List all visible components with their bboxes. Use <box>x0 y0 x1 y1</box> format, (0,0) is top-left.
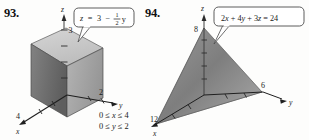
eq94-t2: + <box>229 14 238 23</box>
y-axis-arrow-94 <box>280 99 287 104</box>
figure-94: 94. <box>150 0 309 140</box>
constraint-y: 0 ≤ y ≤ 2 <box>99 121 129 132</box>
y-axis-arrow-93 <box>111 102 118 107</box>
x-tick-label-94: 12 <box>150 115 158 124</box>
y-tick-label-94: 6 <box>261 81 265 90</box>
y-axis-label-94: y <box>288 98 293 107</box>
eq93-frac-numerator: 1 <box>115 11 118 18</box>
z-tick-label-94: 8 <box>194 25 198 34</box>
y-axis-ext-94 <box>263 92 282 99</box>
eq94-t5: + <box>245 14 254 23</box>
constraint-x-hi: ≤ 4 <box>116 111 129 120</box>
x-axis-label-93: x <box>15 127 20 136</box>
eq93-minus: − <box>106 14 111 23</box>
constraint-x: 0 ≤ x ≤ 4 <box>99 110 129 121</box>
eq93-frac-denominator: 2 <box>115 19 118 26</box>
eq93-lhs: z <box>79 14 84 23</box>
callout-tail-94 <box>214 25 230 44</box>
figure-93: 93. <box>0 0 155 140</box>
figure-93-graphic: 3 2 4 z y x z = 3 − 1 <box>0 0 155 140</box>
figure-page: 93. <box>0 0 309 140</box>
figure-94-graphic: 8 6 12 z y x 2x + 4y + 3z = 24 <box>150 0 309 140</box>
x-axis-arrow-93 <box>19 120 26 125</box>
y-tick-label-93: 2 <box>99 88 103 97</box>
z-axis-label-93: z <box>60 5 64 14</box>
x-tick-label-93: 4 <box>16 112 20 121</box>
z-axis-arrow-93 <box>62 14 67 21</box>
constraint-y-lo: 0 ≤ <box>99 122 112 131</box>
eq94-t8: = 24 <box>261 14 278 23</box>
constraint-y-hi: ≤ 2 <box>116 122 129 131</box>
constraints-93: 0 ≤ x ≤ 4 0 ≤ y ≤ 2 <box>99 110 129 132</box>
eq93-int: 3 <box>97 14 101 23</box>
eq93-equals: = <box>88 14 93 23</box>
z-axis-arrow-94 <box>202 14 207 21</box>
z-axis-label-94: z <box>200 4 204 13</box>
tetra-front-face <box>156 28 262 124</box>
y-axis-label-93: y <box>118 101 123 110</box>
equation-94: 2x + 4y + 3z = 24 <box>221 14 278 23</box>
z-tick-label-93: 3 <box>69 26 73 35</box>
constraint-x-lo: 0 ≤ <box>99 111 112 120</box>
x-axis-label-94: x <box>152 129 157 138</box>
